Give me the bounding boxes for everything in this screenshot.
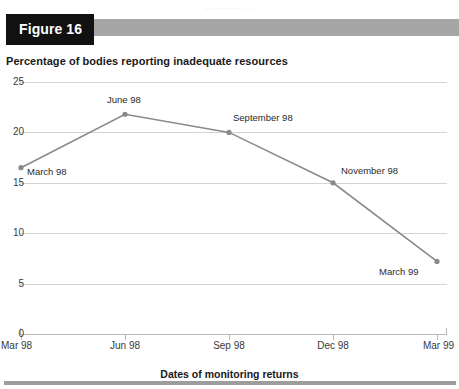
x-tick-label-4: Mar 99 xyxy=(423,340,454,351)
point-label-3: November 98 xyxy=(341,165,398,176)
point-label-0: March 98 xyxy=(27,166,67,177)
y-tick-label-15: 15 xyxy=(0,177,24,188)
x-axis-title: Dates of monitoring returns xyxy=(0,368,459,380)
x-tick-label-0: Mar 98 xyxy=(1,340,32,351)
data-point-marker xyxy=(434,259,439,264)
x-tick-label-2: Sep 98 xyxy=(209,340,249,351)
y-tick-label-20: 20 xyxy=(0,126,24,137)
x-tick-label-3: Dec 98 xyxy=(313,340,353,351)
axis-lines xyxy=(21,328,447,334)
point-label-1: June 98 xyxy=(107,94,141,105)
y-tick-label-0: 0 xyxy=(0,328,24,339)
y-tick-label-25: 25 xyxy=(0,76,24,87)
data-point-marker xyxy=(330,180,335,185)
y-tick-label-10: 10 xyxy=(0,227,24,238)
point-label-4: March 99 xyxy=(379,266,419,277)
y-tick-label-5: 5 xyxy=(0,278,24,289)
data-point-marker xyxy=(226,130,231,135)
line-chart-svg xyxy=(0,0,459,389)
data-point-markers xyxy=(18,112,439,264)
data-point-marker xyxy=(18,165,23,170)
chart-plot-area: 0510152025 Mar 98Jun 98Sep 98Dec 98Mar 9… xyxy=(0,0,459,389)
bottom-rule xyxy=(4,381,456,385)
data-point-marker xyxy=(122,112,127,117)
x-tick-label-1: Jun 98 xyxy=(105,340,145,351)
point-label-2: September 98 xyxy=(233,112,293,123)
series-line xyxy=(21,114,437,261)
